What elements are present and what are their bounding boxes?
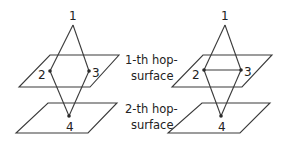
left-node-2	[48, 69, 52, 73]
surface-2-label-line2: surface	[131, 118, 174, 132]
left-node-1-label: 1	[69, 9, 77, 23]
left-edge-2-4	[50, 71, 69, 116]
left-node-4-label: 4	[66, 120, 74, 134]
right-edge-1-2	[204, 25, 225, 70]
right-node-4-label: 4	[218, 120, 226, 134]
right-node-4	[219, 114, 223, 118]
right-node-3-label: 3	[244, 65, 252, 79]
left-graph: 1 2 3 4	[16, 9, 119, 134]
left-node-2-label: 2	[38, 68, 46, 82]
surface-1-label-line1: 1-th hop-	[125, 53, 178, 67]
left-1th-hop-surface	[19, 55, 119, 87]
left-edge-1-2	[50, 25, 73, 71]
hop-surface-diagram: 1 2 3 4 1-th hop- surface 2-th hop- surf…	[0, 0, 285, 143]
left-node-3-label: 3	[92, 66, 100, 80]
right-edge-3-4	[221, 70, 241, 116]
surface-2-label-line1: 2-th hop-	[125, 102, 178, 116]
right-node-2	[202, 68, 206, 72]
right-1th-hop-surface	[172, 55, 272, 87]
left-edge-3-4	[69, 71, 89, 116]
right-graph: 1 2 3 4	[168, 9, 272, 134]
left-node-4	[67, 114, 71, 118]
surface-1-label-line2: surface	[131, 69, 174, 83]
right-node-2-label: 2	[192, 68, 200, 82]
left-edge-1-3	[73, 25, 89, 71]
right-edge-1-3	[225, 25, 241, 70]
right-node-3	[239, 68, 243, 72]
surface-labels: 1-th hop- surface 2-th hop- surface	[125, 53, 178, 132]
right-node-1-label: 1	[221, 9, 229, 23]
left-node-3	[87, 69, 91, 73]
right-edge-2-4	[204, 70, 221, 116]
